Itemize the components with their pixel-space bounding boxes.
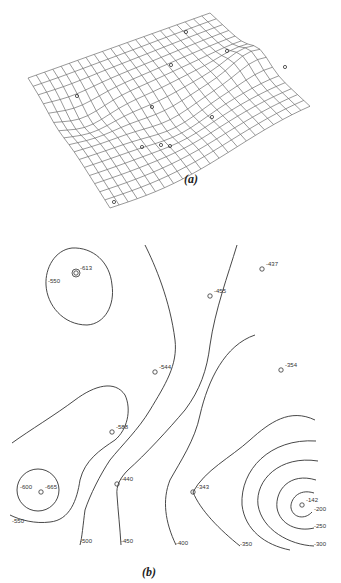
sample-point-marker [140, 145, 143, 148]
data-point-label: -544 [159, 364, 172, 370]
contour-line [17, 469, 59, 511]
data-point-marker [300, 503, 304, 507]
sample-point-marker [169, 63, 172, 66]
contour-line [291, 492, 314, 517]
data-point-marker [153, 370, 157, 374]
contour-label: -550 [48, 278, 61, 284]
data-point-marker [39, 490, 43, 494]
contour-label: -450 [121, 538, 134, 544]
contour-line [80, 245, 175, 545]
contour-line [10, 386, 128, 523]
contour-label: -200 [314, 506, 327, 512]
data-point-marker [110, 430, 114, 434]
contour-label: -500 [80, 538, 93, 544]
contour-label: -600 [20, 484, 33, 490]
contour-line [277, 478, 316, 529]
contour-label: -350 [240, 541, 253, 547]
data-point-label: -142 [306, 497, 319, 503]
data-point-marker [260, 267, 264, 271]
contour-line [258, 460, 318, 546]
contour-label: -550 [12, 518, 25, 524]
data-point-label: -455 [214, 288, 227, 294]
data-points: -613-437-455-544-354-588-665-440-343-142 [39, 261, 319, 507]
sample-point-marker [112, 200, 115, 203]
data-point-label: -354 [285, 362, 298, 368]
sample-point-marker [210, 115, 213, 118]
surface-mesh-plot [28, 13, 310, 208]
sample-point-marker [283, 65, 286, 68]
contour-label: -250 [314, 523, 327, 529]
data-point-label: -588 [116, 424, 129, 430]
sample-point-marker [159, 143, 162, 146]
data-point-marker [279, 368, 283, 372]
data-point-marker [208, 294, 212, 298]
data-point-marker-outer [72, 269, 80, 277]
data-point-marker [74, 271, 78, 275]
contour-line [242, 441, 316, 550]
contour-label: -400 [176, 540, 189, 546]
data-point-label: -440 [121, 476, 134, 482]
caption-b: (b) [142, 565, 156, 579]
contour-line [165, 335, 255, 545]
contour-labels: -550-600-550-500-450-400-350-300-250-200 [12, 278, 327, 547]
contour-label: -300 [314, 541, 327, 547]
data-point-label: -613 [80, 265, 93, 271]
data-point-label: -437 [266, 261, 279, 267]
sample-point-marker [184, 30, 187, 33]
data-point-label: -665 [45, 484, 58, 490]
sample-point-marker [225, 49, 228, 52]
figure: (a) -550-600-550-500-450-400-350-300-250… [0, 0, 341, 583]
contour-line [193, 416, 315, 546]
contour-map [10, 245, 318, 550]
caption-a: (a) [184, 172, 198, 186]
data-point-label: -343 [197, 484, 210, 490]
contour-line [46, 248, 113, 325]
